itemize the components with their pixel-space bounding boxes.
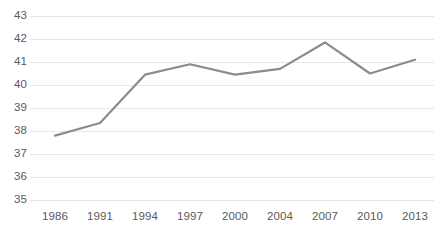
y-axis-tick-label: 43: [5, 10, 27, 22]
y-axis-tick-label: 40: [5, 79, 27, 91]
y-axis-tick-label: 38: [5, 125, 27, 137]
y-axis-tick-label: 37: [5, 148, 27, 160]
line-chart: 434241403938373635 198619911994199720002…: [0, 0, 434, 228]
chart-plot-area: [0, 0, 434, 228]
y-axis-tick-label: 36: [5, 171, 27, 183]
data-series-line: [55, 42, 415, 135]
y-axis-tick-label: 42: [5, 33, 27, 45]
y-axis-tick-label: 39: [5, 102, 27, 114]
data-series-group: [55, 42, 415, 135]
y-axis-tick-labels: 434241403938373635: [0, 0, 27, 228]
y-axis-tick-label: 35: [5, 194, 27, 206]
y-axis-tick-label: 41: [5, 56, 27, 68]
gridlines-group: [30, 16, 434, 200]
